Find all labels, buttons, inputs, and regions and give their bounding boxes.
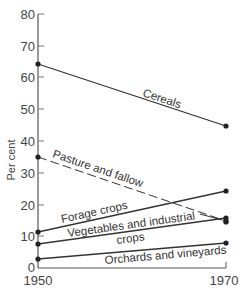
label-pasture-fallow: Pasture and fallow [51, 148, 145, 190]
label-vegetables-crops: crops [116, 230, 146, 246]
y-tick-50: 50 [21, 102, 35, 117]
y-ticks [38, 14, 44, 236]
series-orchards-vineyards: Orchards and vineyards [35, 240, 228, 266]
y-tick-10: 10 [21, 229, 35, 244]
y-tick-70: 70 [21, 39, 35, 54]
label-orchards-vineyards: Orchards and vineyards [104, 244, 227, 266]
y-tick-40: 40 [21, 134, 35, 149]
y-tick-60: 60 [21, 70, 35, 85]
series-cereals: Cereals [35, 61, 228, 128]
y-tick-20: 20 [21, 198, 35, 213]
y-axis-label: Per cent [5, 140, 17, 181]
x-tick-1950: 1950 [24, 273, 53, 288]
y-tick-30: 30 [21, 166, 35, 181]
x-tick-label-1970: 1970 [210, 273, 239, 288]
chart: 80 70 60 50 40 30 20 10 0 Per cent 1950 … [0, 0, 242, 295]
label-cereals: Cereals [141, 87, 183, 111]
y-tick-80: 80 [21, 7, 35, 22]
y-tick-labels: 80 70 60 50 40 30 20 10 0 [21, 7, 35, 275]
